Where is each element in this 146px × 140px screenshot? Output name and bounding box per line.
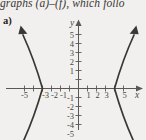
x-axis-label: x (134, 90, 140, 100)
y-tick-label: 1 (70, 66, 74, 76)
x-tick-label: -2 (51, 90, 58, 100)
curve-right-branch (115, 25, 139, 140)
panel-label: a) (3, 15, 12, 26)
y-tick-label: -5 (67, 129, 74, 139)
x-tick-label: 5 (122, 90, 126, 100)
x-tick-label: 1 (86, 90, 90, 100)
x-tick-label: 3 (104, 90, 108, 100)
cropped-caption-text: graphs (a)–(f), which follo (0, 0, 146, 13)
y-tick-labels: 5 4 3 2 1 -1 -2 -3 -4 -5 (67, 30, 75, 139)
x-tick-label: -3 (42, 90, 49, 100)
y-axis (75, 20, 81, 131)
x-tick-label: 2 (95, 90, 99, 100)
y-axis-label: y (69, 18, 75, 28)
figure-panel: graphs (a)–(f), which follo a) (0, 0, 146, 140)
hyperbola-plot: -5 -3 -2 -1 1 2 3 5 5 4 3 2 1 -1 -2 -3 -… (0, 0, 146, 140)
curve-left-branch (18, 25, 42, 140)
x-tick-label: -5 (21, 90, 28, 100)
